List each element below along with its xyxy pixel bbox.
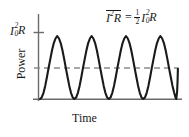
equation-lhs-R: R (114, 12, 121, 24)
equation-lhs-overbar: I2R (106, 10, 121, 24)
equation-rhs-I: I (141, 12, 145, 24)
y-tick-I: I (10, 25, 14, 37)
ac-power-figure: I2R = 1 2 I 2 0 R I 2 0 R Power Time (0, 0, 189, 137)
fraction-denominator: 2 (134, 17, 140, 26)
equation-lhs-exponent: 2 (110, 10, 114, 18)
equation-rhs-R: R (149, 11, 156, 23)
x-axis-title: Time (72, 112, 97, 124)
equation-equals-sign: = (125, 11, 132, 23)
equation-one-half-fraction: 1 2 (134, 9, 140, 26)
fraction-numerator: 1 (134, 9, 140, 17)
average-power-equation: I2R = 1 2 I 2 0 R (106, 9, 156, 26)
equation-rhs-I0-squared: I 2 0 (141, 11, 149, 23)
equation-rhs-subscript: 0 (146, 17, 150, 25)
y-axis-title: Power (15, 34, 27, 94)
